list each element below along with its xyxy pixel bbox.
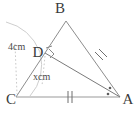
vertex-label-c: C [6, 91, 16, 107]
vertex-label-d: D [33, 44, 44, 60]
right-angle-mark-at-d [49, 49, 54, 58]
segment-da [45, 53, 120, 97]
segment-ba [66, 21, 120, 97]
vertex-label-b: B [55, 0, 65, 16]
tick-mark-ba-2 [99, 49, 107, 57]
angle-dot-a-upper [109, 87, 112, 90]
geometry-figure: B C A D 4cm xcm [0, 0, 138, 116]
measure-label-xcm: xcm [33, 71, 50, 82]
tick-mark-ba-1 [95, 52, 103, 60]
measure-label-4cm: 4cm [8, 41, 25, 52]
geometry-canvas: B C A D 4cm xcm [0, 0, 138, 116]
vertex-label-a: A [123, 91, 134, 107]
angle-dot-a-lower [107, 93, 110, 96]
